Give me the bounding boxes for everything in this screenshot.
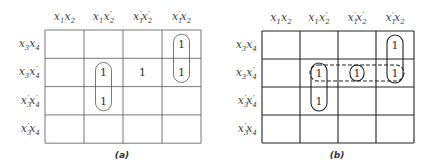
row-header: x3x4′	[236, 65, 257, 81]
column-header: x1′x2	[385, 10, 405, 26]
cell-value: 1	[316, 67, 323, 80]
karnaugh-map-b: x1x2x1x2′x1′x2′x1′x2x3x4x3x4′x3′x4′x3′x4…	[236, 10, 414, 160]
row-header: x3x4	[236, 38, 257, 53]
row-header: x3′x4′	[21, 93, 40, 109]
cell-value: 1	[316, 95, 323, 108]
cell-value: 1	[178, 38, 185, 51]
column-header: x1x2	[270, 11, 292, 26]
row-header: x3x4′	[19, 64, 40, 80]
cell-value: 1	[178, 66, 185, 79]
column-header: x1′x2′	[133, 9, 153, 25]
row-header: x3′x4′	[238, 93, 257, 109]
column-header: x1x2	[54, 10, 76, 25]
column-header: x1x2′	[93, 9, 115, 25]
cell-value: 1	[100, 66, 107, 79]
karnaugh-maps-figure: x1x2x1x2′x1′x2′x1′x2x3x4x3x4′x3′x4′x3′x4…	[0, 0, 428, 167]
karnaugh-map-a: x1x2x1x2′x1′x2′x1′x2x3x4x3x4′x3′x4′x3′x4…	[19, 9, 201, 160]
figure-caption: (b)	[330, 150, 345, 160]
figure-caption: (a)	[115, 150, 129, 160]
cell-value: 1	[354, 67, 361, 80]
row-header: x3′x4	[21, 121, 40, 137]
row-header: x3′x4	[238, 121, 257, 137]
column-header: x1′x2	[172, 9, 192, 25]
column-header: x1′x2′	[347, 10, 367, 26]
column-header: x1x2′	[308, 10, 330, 26]
cell-value: 1	[139, 66, 146, 79]
row-header: x3x4	[19, 37, 40, 52]
cell-value: 1	[100, 95, 107, 108]
cell-value: 1	[392, 67, 399, 80]
cell-value: 1	[392, 39, 399, 52]
